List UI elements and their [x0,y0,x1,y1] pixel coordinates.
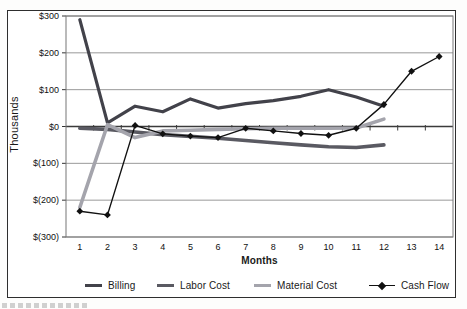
y-tick-label: $0 [49,122,59,132]
x-tick-label: 2 [105,242,110,252]
y-tick-label: $(200) [33,195,59,205]
x-tick-label: 8 [271,242,276,252]
x-tick-label: 9 [298,242,303,252]
y-tick-label: $(300) [33,232,59,242]
x-tick-label: 11 [352,242,361,252]
legend-label-billing: Billing [108,280,135,291]
legend-item-billing: Billing [85,279,135,292]
x-tick-label: 10 [324,242,334,252]
data-point-diamond [132,122,139,129]
legend-item-labor-cost: Labor Cost [157,279,230,292]
legend-label-cash-flow: Cash Flow [401,280,449,291]
data-point-diamond [76,208,83,215]
legend-label-material-cost: Material Cost [277,280,337,291]
data-point-diamond [187,133,194,140]
y-axis-title: Thousands [8,80,21,170]
data-point-diamond [325,132,332,139]
legend-item-cash-flow: Cash Flow [369,279,449,292]
material-cost-line-swatch [254,284,271,287]
data-point-diamond [104,212,111,219]
billing-line-swatch [85,284,102,287]
x-tick-label: 5 [188,242,193,252]
legend-item-material-cost: Material Cost [254,279,337,292]
x-tick-label: 14 [434,242,444,252]
x-tick-label: 6 [216,242,221,252]
x-axis-title: Months [66,255,453,266]
legend-label-labor-cost: Labor Cost [180,280,230,291]
data-point-diamond [436,53,443,60]
x-tick-label: 13 [407,242,417,252]
data-point-diamond [298,130,305,137]
x-tick-label: 4 [160,242,165,252]
y-tick-label: $200 [39,48,59,58]
cropped-caption-fragment [2,303,90,308]
x-tick-label: 7 [243,242,248,252]
diamond-marker-icon [378,282,386,290]
series-line-billing [80,20,384,123]
y-tick-label: $(100) [33,158,59,168]
x-tick-label: 1 [77,242,82,252]
chart-figure: $300$200$100$0$(100)$(200)$(300)12345678… [0,0,467,309]
y-tick-label: $300 [39,11,59,21]
y-tick-label: $100 [39,85,59,95]
labor-cost-line-swatch [157,284,174,287]
x-tick-label: 12 [379,242,389,252]
cash-flow-line-swatch [369,285,395,286]
x-tick-label: 3 [133,242,138,252]
